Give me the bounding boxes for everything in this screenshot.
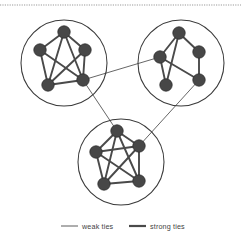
node-B1 [173,27,185,39]
node-A1 [58,26,70,38]
node-C2 [90,146,102,158]
node-C4 [98,178,110,190]
network-diagram: weak tiesstrong ties [0,0,241,239]
cluster-top-right-edge-B2-B5 [160,57,199,80]
node-B3 [193,46,205,58]
bridge-left-right [83,57,160,80]
legend-label-thin: weak ties [81,222,114,231]
nodes-layer [34,26,205,190]
figure-root: weak tiesstrong ties [0,0,241,239]
node-C5 [133,175,145,187]
strong-tie-edges-layer [40,32,199,184]
node-A5 [77,74,89,86]
bridge-left-bottom [83,80,117,131]
legend-label-thick: strong ties [150,222,185,231]
node-B5 [193,74,205,86]
node-B4 [160,79,172,91]
node-B2 [154,51,166,63]
legend: weak tiesstrong ties [61,222,185,231]
node-A2 [34,44,46,56]
node-C3 [133,140,145,152]
node-C1 [111,125,123,137]
node-A3 [79,44,91,56]
node-A4 [42,79,54,91]
